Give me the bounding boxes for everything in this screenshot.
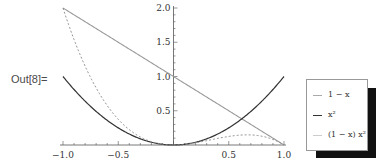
legend-item: 1 − x: [307, 88, 367, 102]
x-tick-label: −0.5: [107, 150, 129, 160]
legend-swatch-3: [313, 135, 322, 136]
legend-swatch-1: [313, 95, 322, 96]
y-tick-label: 2.0: [156, 3, 171, 13]
legend-label: (1 − x) x²: [328, 128, 366, 142]
legend-label: x²: [328, 108, 336, 122]
x-tick-label: 0.5: [222, 150, 237, 160]
y-tick-label: 0.5: [156, 106, 171, 116]
x-tick-label: 1.0: [277, 150, 292, 160]
legend-label: 1 − x: [328, 88, 349, 102]
y-tick-label: 1.5: [156, 37, 171, 47]
chart-legend: 1 − x x² (1 − x) x²: [306, 79, 368, 151]
legend-swatch-2: [313, 115, 322, 116]
x-tick-label: −1.0: [52, 150, 74, 160]
legend-item: (1 − x) x²: [307, 128, 367, 142]
legend-item: x²: [307, 108, 367, 122]
chart-axes: −1.0−0.50.51.00.51.01.52.0: [52, 3, 291, 160]
